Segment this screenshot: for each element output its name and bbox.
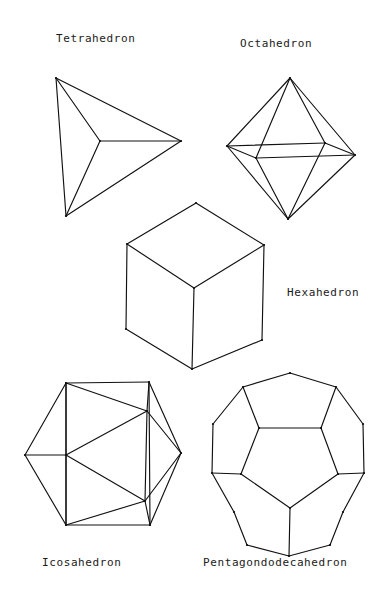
edge xyxy=(290,474,338,508)
vertex-dot xyxy=(65,454,67,456)
vertex-dot xyxy=(324,142,326,144)
edge xyxy=(288,155,355,219)
edge xyxy=(243,387,259,428)
edge xyxy=(321,387,336,428)
vertex-dot xyxy=(211,472,213,474)
vertex-dot xyxy=(125,328,127,330)
edge xyxy=(192,340,262,369)
vertex-dot xyxy=(146,410,148,412)
solid-icosahedron xyxy=(24,381,182,526)
edge xyxy=(56,78,66,216)
edge xyxy=(126,329,192,369)
edge xyxy=(234,512,247,545)
vertex-dot xyxy=(65,215,67,217)
vertex-dot xyxy=(65,382,67,384)
edge xyxy=(149,382,150,525)
edge xyxy=(262,245,264,340)
edge xyxy=(145,411,147,501)
label-hexahedron: Hexahedron xyxy=(287,287,359,298)
edge xyxy=(243,373,290,387)
figures-group xyxy=(24,77,365,557)
label-pentagondodecahedron: Pentagondodecahedron xyxy=(203,557,347,568)
vertex-dot xyxy=(212,423,214,425)
solid-hexahedron xyxy=(125,202,265,370)
label-icosahedron: Icosahedron xyxy=(42,557,121,568)
vertex-dot xyxy=(180,140,182,142)
vertex-dot xyxy=(289,372,291,374)
edge xyxy=(363,424,364,473)
edge xyxy=(227,143,325,146)
vertex-dot xyxy=(263,244,265,246)
vertex-dot xyxy=(289,77,291,79)
edge xyxy=(212,473,241,474)
vertex-dot xyxy=(233,511,235,513)
vertex-dot xyxy=(126,243,128,245)
vertex-dot xyxy=(337,473,339,475)
edge xyxy=(196,203,264,245)
solid-octahedron xyxy=(226,77,356,220)
edge xyxy=(227,78,290,146)
edge xyxy=(66,382,149,383)
edge xyxy=(66,411,147,455)
vertex-dot xyxy=(261,339,263,341)
edge xyxy=(25,383,66,455)
edge xyxy=(241,474,290,508)
edge xyxy=(66,501,145,525)
vertex-dot xyxy=(242,386,244,388)
vertex-dot xyxy=(191,368,193,370)
vertex-dot xyxy=(24,454,26,456)
vertex-dot xyxy=(354,154,356,156)
vertex-dot xyxy=(289,507,291,509)
vertex-dot xyxy=(258,427,260,429)
edge xyxy=(330,512,343,545)
edge xyxy=(256,78,290,158)
edge xyxy=(289,508,290,556)
edge xyxy=(66,455,145,501)
edge xyxy=(149,382,181,453)
edge xyxy=(56,78,100,141)
edge xyxy=(336,387,363,424)
edge xyxy=(289,545,330,556)
edge xyxy=(56,78,181,141)
edge xyxy=(256,158,288,219)
vertex-dot xyxy=(195,202,197,204)
vertex-dot xyxy=(193,287,195,289)
edge xyxy=(343,473,364,512)
edge xyxy=(256,155,355,158)
vertex-dot xyxy=(55,77,57,79)
vertex-dot xyxy=(335,386,337,388)
vertex-dot xyxy=(180,452,182,454)
edge xyxy=(212,473,234,512)
vertex-dot xyxy=(287,218,289,220)
solid-tetrahedron xyxy=(55,77,182,217)
platonic-solids-figure: Tetrahedron Octahedron Hexahedron Icosah… xyxy=(0,0,389,606)
edge xyxy=(321,428,338,474)
edge xyxy=(338,473,364,474)
vertex-dot xyxy=(144,500,146,502)
edge xyxy=(288,143,325,219)
edge xyxy=(127,244,194,288)
edge xyxy=(66,383,147,411)
edge xyxy=(290,373,336,387)
edge xyxy=(25,455,66,525)
solid-pentagondodecahedron xyxy=(211,372,365,557)
vertex-dot xyxy=(362,423,364,425)
vertex-dot xyxy=(99,140,101,142)
solids-drawing xyxy=(0,0,389,606)
vertex-dot xyxy=(320,427,322,429)
edge xyxy=(147,411,181,453)
vertex-dot xyxy=(148,381,150,383)
edge xyxy=(241,428,259,474)
vertex-dot xyxy=(363,472,365,474)
vertex-dot xyxy=(226,145,228,147)
label-tetrahedron: Tetrahedron xyxy=(56,33,135,44)
vertex-dot xyxy=(255,157,257,159)
edge xyxy=(247,545,289,556)
vertex-dot xyxy=(329,544,331,546)
edge xyxy=(145,501,150,525)
vertex-dot xyxy=(246,544,248,546)
edge xyxy=(213,387,243,424)
edge xyxy=(194,245,264,288)
vertex-dot xyxy=(149,524,151,526)
vertex-dot xyxy=(240,473,242,475)
